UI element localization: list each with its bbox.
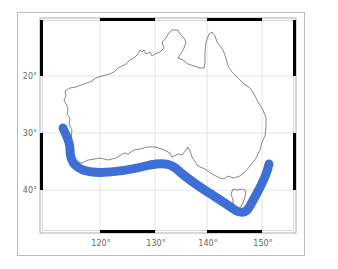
lat-label-40: 40° [23, 186, 37, 195]
lat-label-20: 20° [23, 72, 37, 81]
lon-label-140: 140° [198, 239, 217, 248]
lon-label-150: 150° [253, 239, 272, 248]
lon-label-120: 120° [91, 239, 110, 248]
lon-label-130: 130° [146, 239, 165, 248]
australia-map: 20° 30° 40° 120° 130° 140° 150° [0, 0, 338, 269]
lat-label-30: 30° [23, 129, 37, 138]
